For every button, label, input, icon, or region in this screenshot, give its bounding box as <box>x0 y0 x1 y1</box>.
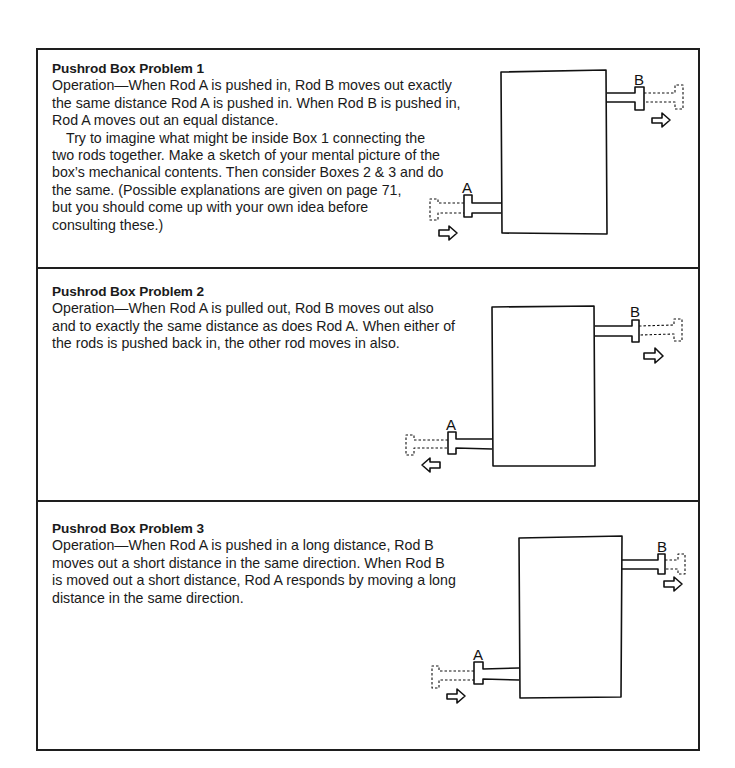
rod-a <box>432 662 519 688</box>
rod-a <box>406 432 492 455</box>
arrow-right-icon <box>652 113 670 127</box>
box-3 <box>519 536 622 698</box>
arrow-left-icon <box>422 458 440 472</box>
rod-a-label: A <box>462 179 472 196</box>
problem-3-panel: Pushrod Box Problem 3 Operation—When Rod… <box>38 500 698 751</box>
rod-b-label: B <box>630 303 640 320</box>
rod-b-label: B <box>657 538 667 555</box>
rod-b <box>622 554 685 574</box>
problems-frame: Pushrod Box Problem 1 Operation—When Rod… <box>36 48 700 751</box>
pushrod-box-1-diagram: A B <box>38 50 698 265</box>
arrow-right-icon <box>644 348 663 363</box>
box-1 <box>501 70 607 234</box>
arrow-right-icon <box>439 226 457 240</box>
box-2 <box>492 306 595 466</box>
arrow-right-icon <box>447 689 465 703</box>
rod-a <box>430 195 501 220</box>
rod-b-label: B <box>634 71 644 88</box>
rod-a-label: A <box>446 416 456 433</box>
problem-1-panel: Pushrod Box Problem 1 Operation—When Rod… <box>38 50 698 267</box>
rod-a-label: A <box>473 646 483 663</box>
problem-2-panel: Pushrod Box Problem 2 Operation—When Rod… <box>38 267 698 500</box>
rod-b <box>595 319 682 342</box>
arrow-right-icon <box>664 577 682 591</box>
pushrod-box-2-diagram: A B <box>38 269 698 499</box>
pushrod-box-3-diagram: A B <box>38 502 698 752</box>
rod-b <box>607 85 683 110</box>
